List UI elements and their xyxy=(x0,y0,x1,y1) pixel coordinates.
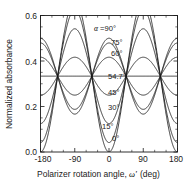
annotation-547: 54.7° xyxy=(108,72,126,81)
y-tick-label: 0.0 xyxy=(25,147,37,157)
annotation-label: =90° xyxy=(100,24,116,33)
x-tick-label: -180 xyxy=(34,154,51,164)
x-tick-label: 90 xyxy=(138,154,148,164)
normalized-absorbance-plot: -180 -90 0 90 180 0.0 0.2 0.4 0.6 Normal… xyxy=(0,0,190,188)
annotation-75: 75° xyxy=(111,38,122,47)
y-axis-title: Normalized absorbance xyxy=(4,39,14,129)
chart-figure: -180 -90 0 90 180 0.0 0.2 0.4 0.6 Normal… xyxy=(0,0,190,188)
annotation-60: 60° xyxy=(111,49,122,58)
y-tick-label: 0.2 xyxy=(25,102,37,112)
annotation-30: 30° xyxy=(108,103,119,112)
omega-symbol: ω' xyxy=(129,169,137,179)
y-tick-label: 0.4 xyxy=(25,57,37,67)
x-tick-label: 180 xyxy=(169,154,183,164)
x-axis-title: Polarizer rotation angle, ω' (deg) xyxy=(37,169,160,179)
annotation-alpha-90: α =90° xyxy=(94,24,116,33)
annotation-45: 45° xyxy=(108,88,119,97)
x-axis-unit: (deg) xyxy=(140,169,160,179)
y-tick-label: 0.6 xyxy=(25,11,37,21)
annotation-15: 15° xyxy=(102,122,113,131)
x-tick-label: -90 xyxy=(69,154,82,164)
annotation-0: 0° xyxy=(112,134,119,143)
x-axis-title-text: Polarizer rotation angle, xyxy=(37,169,127,179)
x-tick-label: 0 xyxy=(107,154,112,164)
